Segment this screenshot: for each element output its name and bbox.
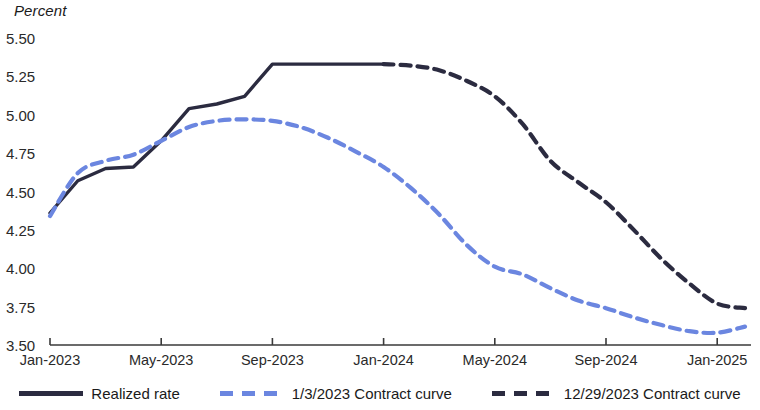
legend-item-1[interactable]: Realized rate (19, 385, 179, 402)
legend-swatch-icon (220, 391, 284, 396)
interest-rate-line-chart: Percent 5.505.255.004.754.504.254.003.75… (0, 0, 760, 410)
legend-label: 1/3/2023 Contract curve (292, 385, 452, 402)
legend-label: 12/29/2023 Contract curve (564, 385, 741, 402)
legend-item-3[interactable]: 12/29/2023 Contract curve (492, 385, 741, 402)
series-line-contract_2023 (50, 119, 745, 333)
legend-swatch-icon (492, 391, 556, 396)
axis-lines (50, 338, 751, 345)
chart-legend: Realized rate1/3/2023 Contract curve12/2… (0, 378, 760, 408)
series-line-contract_2024 (384, 64, 745, 308)
data-series-group (50, 64, 745, 333)
legend-swatch-icon (19, 391, 83, 396)
plot-area (0, 0, 760, 410)
legend-item-2[interactable]: 1/3/2023 Contract curve (220, 385, 452, 402)
series-line-realized (50, 64, 384, 213)
legend-label: Realized rate (91, 385, 179, 402)
